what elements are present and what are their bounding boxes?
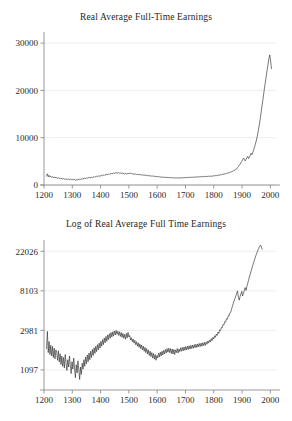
y-tick-label: 22026	[16, 247, 39, 257]
data-series-line	[47, 55, 272, 180]
chart-real-earnings-log: Log of Real Average Full Time Earnings 1…	[0, 210, 292, 421]
y-tick-label: 8103	[20, 286, 39, 296]
x-tick-label: 1600	[148, 190, 167, 200]
plot-area-linear: 0100002000030000120013001400150016001700…	[0, 0, 292, 210]
x-tick-label: 1700	[176, 395, 195, 405]
x-tick-label: 1800	[205, 395, 224, 405]
x-tick-label: 1300	[63, 395, 82, 405]
chart-real-earnings-linear: Real Average Full-Time Earnings 01000020…	[0, 0, 292, 210]
x-tick-label: 2000	[261, 395, 280, 405]
x-tick-label: 1700	[176, 190, 195, 200]
x-tick-label: 1400	[92, 190, 111, 200]
y-tick-label: 2981	[20, 326, 38, 336]
plot-area-log: 1097298181032202612001300140015001600170…	[0, 210, 292, 421]
y-tick-label: 0	[34, 180, 39, 190]
y-tick-label: 30000	[16, 38, 39, 48]
x-tick-label: 1500	[120, 190, 139, 200]
x-tick-label: 1400	[92, 395, 111, 405]
x-tick-label: 1200	[35, 190, 54, 200]
y-tick-label: 10000	[16, 133, 39, 143]
x-tick-label: 2000	[261, 190, 280, 200]
x-tick-label: 1600	[148, 395, 167, 405]
data-series-line	[47, 245, 263, 379]
x-tick-label: 1900	[233, 395, 252, 405]
x-tick-label: 1800	[205, 190, 224, 200]
y-tick-label: 20000	[16, 86, 39, 96]
x-tick-label: 1900	[233, 190, 252, 200]
x-tick-label: 1300	[63, 190, 82, 200]
x-tick-label: 1500	[120, 395, 139, 405]
y-tick-label: 1097	[20, 365, 39, 375]
x-tick-label: 1200	[35, 395, 54, 405]
